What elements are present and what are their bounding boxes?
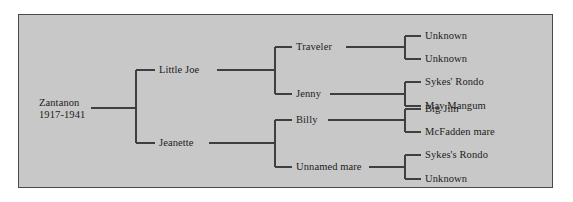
node-sykes-rondo: Sykes' Rondo [425, 76, 484, 88]
node-unnamed-mare: Unnamed mare [296, 161, 362, 173]
node-unknown-1: Unknown [425, 30, 467, 42]
pedigree-panel: Zantanon 1917-1941 Little Joe Jeanette T… [18, 14, 553, 188]
node-traveler: Traveler [296, 41, 332, 53]
node-billy: Billy [296, 114, 318, 126]
node-unknown-3: Unknown [425, 173, 467, 185]
node-root-name: Zantanon [39, 97, 85, 109]
node-unknown-2: Unknown [425, 53, 467, 65]
node-big-jim: Big Jim [425, 103, 459, 115]
node-jenny: Jenny [296, 88, 321, 100]
node-mcfadden-mare: McFadden mare [425, 126, 495, 138]
node-sykess-rondo: Sykes's Rondo [425, 149, 488, 161]
node-jeanette: Jeanette [159, 137, 194, 149]
node-little-joe: Little Joe [159, 64, 199, 76]
node-root-zantanon: Zantanon 1917-1941 [39, 97, 85, 120]
node-root-dates: 1917-1941 [39, 109, 85, 121]
pedigree-figure: Zantanon 1917-1941 Little Joe Jeanette T… [0, 0, 573, 202]
